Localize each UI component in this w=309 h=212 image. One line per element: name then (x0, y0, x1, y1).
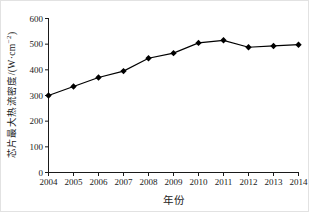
x-tick-label: 2007 (115, 177, 134, 187)
x-tick-label: 2004 (40, 177, 59, 187)
x-tick-label: 2011 (215, 177, 233, 187)
data-point (95, 74, 101, 80)
data-point (45, 92, 51, 98)
data-point (295, 41, 301, 47)
data-point (220, 37, 226, 43)
y-axis-label: 芯片最大热流密度/(W·cm−2) (4, 32, 18, 159)
chart-figure: 0100200300400500600200420052006200720082… (0, 0, 309, 212)
y-tick-label: 200 (30, 116, 44, 126)
y-tick-label: 600 (30, 14, 44, 24)
y-axis-label-main: 芯片最大热流密度/(W·cm (7, 43, 17, 158)
y-tick-label: 100 (30, 142, 44, 152)
data-point (270, 43, 276, 49)
x-tick-label: 2012 (240, 177, 258, 187)
data-point (120, 68, 126, 74)
x-tick-label: 2013 (265, 177, 284, 187)
y-tick-label: 400 (30, 65, 44, 75)
y-tick-label: 500 (30, 39, 44, 49)
x-tick-label: 2014 (290, 177, 309, 187)
x-tick-label: 2005 (65, 177, 84, 187)
x-tick-label: 2010 (190, 177, 209, 187)
y-axis-label-superscript: −2 (5, 35, 13, 43)
x-tick-label: 2009 (165, 177, 184, 187)
x-axis-label: 年份 (48, 192, 299, 207)
data-point (245, 44, 251, 50)
y-tick-label: 0 (39, 168, 44, 178)
x-tick-label: 2008 (140, 177, 159, 187)
y-axis-label-suffix: ) (7, 32, 17, 36)
data-point (170, 50, 176, 56)
chart-canvas: 0100200300400500600200420052006200720082… (1, 1, 309, 212)
series-line (49, 40, 299, 95)
x-tick-label: 2006 (90, 177, 109, 187)
data-point (195, 40, 201, 46)
data-point (70, 83, 76, 89)
y-tick-label: 300 (30, 91, 44, 101)
data-point (145, 55, 151, 61)
